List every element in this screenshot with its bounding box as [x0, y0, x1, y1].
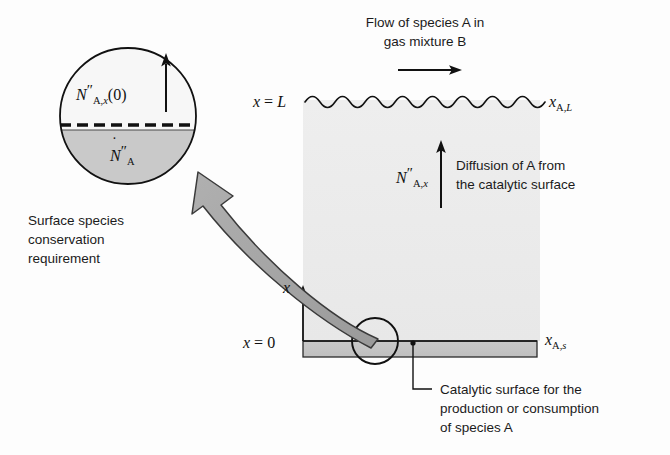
x-equals-L-var: x: [252, 93, 260, 110]
mole-fraction-L-base: x: [548, 93, 556, 110]
mole-fraction-L-sub: A,: [556, 102, 566, 113]
catalytic-plate-group: [303, 341, 537, 357]
inset-flux-arg: (0): [108, 86, 127, 104]
flow-arrow-group: [398, 65, 462, 75]
x-equals-0-value: 0: [267, 334, 275, 351]
catalytic-caption-line1: Catalytic surface for the: [440, 382, 582, 397]
surface-reaction-sub: A: [127, 156, 135, 167]
inset-flux-sub: A,: [93, 95, 103, 106]
catalytic-caption-line3: of species A: [440, 420, 513, 435]
mole-fraction-s-sub: A,: [552, 340, 562, 351]
mole-fraction-s-label: xA,s: [544, 331, 566, 351]
surface-caption-line3: requirement: [28, 251, 100, 266]
mole-fraction-L-label: xA,L: [548, 93, 572, 113]
gas-region-group: [303, 100, 540, 341]
mole-fraction-L-sub-italic: L: [565, 102, 572, 113]
figure-canvas: Flow of species A in gas mixture B x = L…: [0, 0, 670, 455]
diffusion-flux-sub-italic: x: [422, 178, 428, 189]
x-equals-L-value: L: [276, 93, 286, 110]
diffusion-caption-line2: the catalytic surface: [456, 177, 575, 192]
diffusion-caption-line1: Diffusion of A from: [456, 158, 565, 173]
x-equals-0-label: x = 0: [242, 334, 275, 351]
flow-caption-line2: gas mixture B: [384, 34, 467, 49]
mole-fraction-s-base: x: [544, 331, 552, 348]
catalytic-caption-line2: production or consumption: [440, 401, 599, 416]
mole-fraction-s-sub-italic: s: [562, 340, 566, 351]
catalytic-plate: [303, 341, 537, 357]
gas-region: [303, 100, 540, 341]
x-equals-L-eq: =: [260, 93, 277, 110]
x-equals-0-eq: =: [250, 334, 267, 351]
flow-caption-line1: Flow of species A in: [366, 15, 485, 30]
x-equals-0-var: x: [242, 334, 250, 351]
surface-caption-line1: Surface species: [28, 213, 124, 228]
diffusion-flux-sub: A,: [413, 178, 423, 189]
x-equals-L-label: x = L: [252, 93, 286, 110]
surface-caption-line2: conservation: [28, 232, 105, 247]
mass-transfer-diagram: Flow of species A in gas mixture B x = L…: [0, 0, 670, 455]
x-axis-label: x: [282, 279, 290, 296]
